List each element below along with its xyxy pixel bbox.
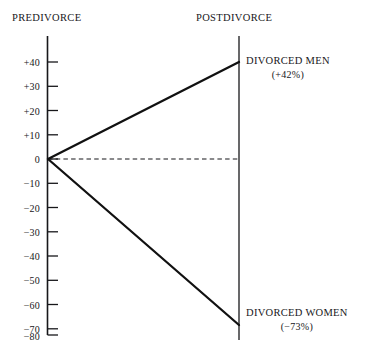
tick-label: −80	[6, 331, 40, 342]
tick-label: −40	[6, 251, 40, 262]
tick-label: −60	[6, 299, 40, 310]
tick-label: +20	[6, 105, 40, 116]
divorced-women-line	[48, 159, 239, 325]
divorced-women-label: DIVORCED WOMEN (−73%)	[246, 306, 348, 334]
tick-label: +30	[6, 81, 40, 92]
divorced-men-value: (+42%)	[246, 68, 330, 82]
axis-tick-marks	[48, 62, 59, 335]
tick-label: 0	[6, 154, 40, 165]
divorced-men-line	[48, 62, 239, 159]
plot-area	[0, 0, 366, 349]
tick-label: −20	[6, 202, 40, 213]
divorced-men-label: DIVORCED MEN (+42%)	[246, 54, 330, 82]
tick-label: +40	[6, 57, 40, 68]
tick-label: −10	[6, 178, 40, 189]
tick-label: +10	[6, 129, 40, 140]
tick-label: −50	[6, 275, 40, 286]
divorce-change-chart: PREDIVORCE POSTDIVORCE	[0, 0, 366, 349]
tick-label: −30	[6, 226, 40, 237]
divorced-men-name: DIVORCED MEN	[246, 55, 330, 66]
divorced-women-value: (−73%)	[246, 320, 348, 334]
divorced-women-name: DIVORCED WOMEN	[246, 307, 348, 318]
axis-tick-labels: +40 +30 +20 +10 0 −10 −20 −30 −40 −50 −6…	[0, 0, 40, 349]
